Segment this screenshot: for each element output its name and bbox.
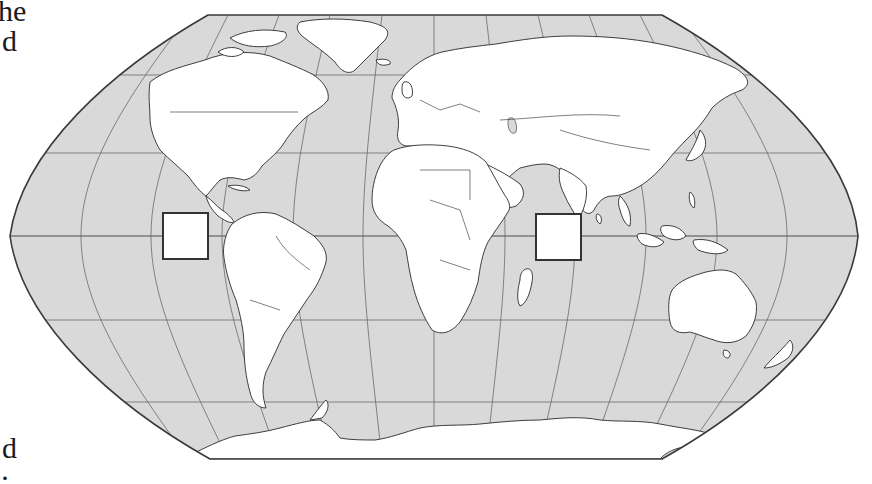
blank-label-box-indian[interactable] [535,213,582,261]
blank-label-box-pacific[interactable] [162,212,209,260]
